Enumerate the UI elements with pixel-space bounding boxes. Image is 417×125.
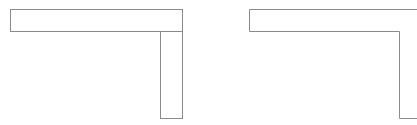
left-t-shape	[11, 10, 183, 119]
left-top-bar	[11, 10, 183, 32]
left-vertical-bar	[161, 32, 183, 119]
right-inner-edge	[250, 10, 417, 119]
right-l-outline	[250, 10, 417, 119]
diagram-canvas	[0, 0, 417, 125]
